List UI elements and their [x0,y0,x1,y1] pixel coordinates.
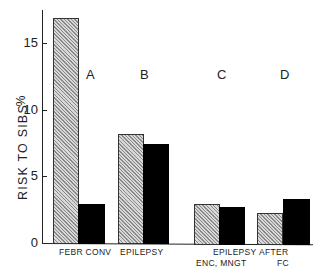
bar-a-hatched [53,18,79,244]
bar-b-black [143,144,169,244]
bar-c-hatched [194,204,220,245]
category-label-c-line1: EPILEPSY [213,247,257,257]
category-label-a: FEBR CONV [59,247,111,257]
category-label-d-line1: AFTER [259,247,288,257]
bar-d-black [283,199,310,245]
y-tick-15 [42,43,47,44]
group-letter-b: B [140,67,149,82]
bar-d-hatched [257,213,283,245]
bar-b-hatched [118,134,144,244]
y-tick-5 [42,176,47,177]
y-tick-label-0: 0 [18,236,38,249]
group-letter-d: D [280,67,289,82]
bar-c-black [219,207,245,245]
group-letter-a: A [86,67,95,82]
bar-chart: 0 5 10 15 RISK TO SIBS % A FEBR CONV B E… [0,0,322,277]
y-axis-title: RISK TO SIBS [16,104,30,200]
category-label-c-line2: ENC, MNGT [196,258,246,268]
bar-a-black [78,204,105,244]
group-letter-c: C [217,67,226,82]
y-axis-line [42,10,43,244]
y-tick-10 [42,110,47,111]
category-label-b: EPILEPSY [120,247,164,257]
y-axis-unit: % [14,96,28,107]
y-tick-0 [42,243,47,244]
y-tick-label-15: 15 [18,36,38,49]
category-label-d-line2: FC [277,258,289,268]
